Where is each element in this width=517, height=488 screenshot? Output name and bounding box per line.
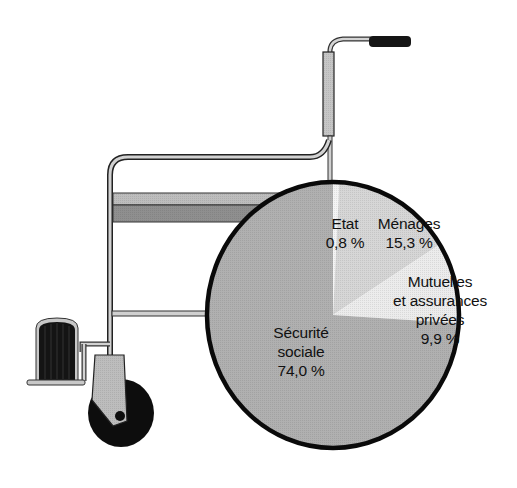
label-menages-name: Ménages [364,214,454,233]
label-secu-value: 74,0 % [256,361,346,380]
push-handle [323,36,411,136]
label-mutuelles: Mutuelles et assurances privées 9,9 % [378,272,502,348]
label-mutuelles-line3: privées [378,310,502,329]
label-secu: Sécurité sociale 74,0 % [256,323,346,380]
label-menages-value: 15,3 % [364,233,454,252]
footplate [27,380,85,385]
label-mutuelles-line2: et assurances [378,291,502,310]
label-secu-line1: Sécurité [256,323,346,342]
label-menages: Ménages 15,3 % [364,214,454,252]
label-mutuelles-value: 9,9 % [378,329,502,348]
crossbar [112,311,212,316]
caster-wheel [88,355,154,447]
label-mutuelles-line1: Mutuelles [378,272,502,291]
caster-axle [115,411,125,421]
handle-grip [369,36,411,47]
label-secu-line2: sociale [256,342,346,361]
